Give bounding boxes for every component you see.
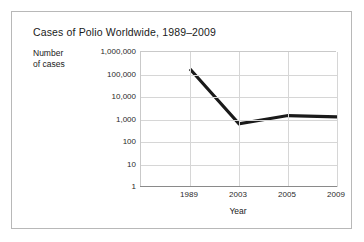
y-axis-tick-label: 100,000 (74, 69, 136, 78)
y-axis-tick-labels: 1,000,000100,00010,0001,000100101 (72, 51, 136, 186)
x-axis-tick-label: 2005 (278, 190, 296, 199)
y-axis-tick-label: 10,000 (74, 92, 136, 101)
y-axis-title-line-2: of cases (33, 59, 77, 70)
y-axis-tick-label: 10 (74, 159, 136, 168)
x-axis-line (140, 186, 337, 187)
gridline-vertical (337, 52, 338, 187)
x-axis-tick-label: 2003 (229, 190, 247, 199)
gridline-vertical (288, 52, 289, 187)
y-axis-tick-label: 1 (74, 182, 136, 191)
chart-figure-frame: Cases of Polio Worldwide, 1989–2009 Numb… (11, 11, 352, 229)
y-axis-title: Number of cases (33, 48, 77, 69)
x-axis-tick-label: 2009 (327, 190, 345, 199)
y-axis-tick-label: 1,000,000 (74, 47, 136, 56)
y-axis-title-line-1: Number (33, 48, 77, 59)
y-axis-tick-label: 1,000 (74, 114, 136, 123)
x-axis-tick-labels: 1989200320052009 (140, 190, 336, 202)
chart-title: Cases of Polio Worldwide, 1989–2009 (33, 26, 216, 38)
x-axis-tick-label: 1989 (180, 190, 198, 199)
x-axis-title: Year (140, 206, 336, 216)
y-axis-tick-label: 100 (74, 137, 136, 146)
plot-area (140, 51, 336, 186)
gridline-vertical (190, 52, 191, 187)
gridline-vertical (239, 52, 240, 187)
